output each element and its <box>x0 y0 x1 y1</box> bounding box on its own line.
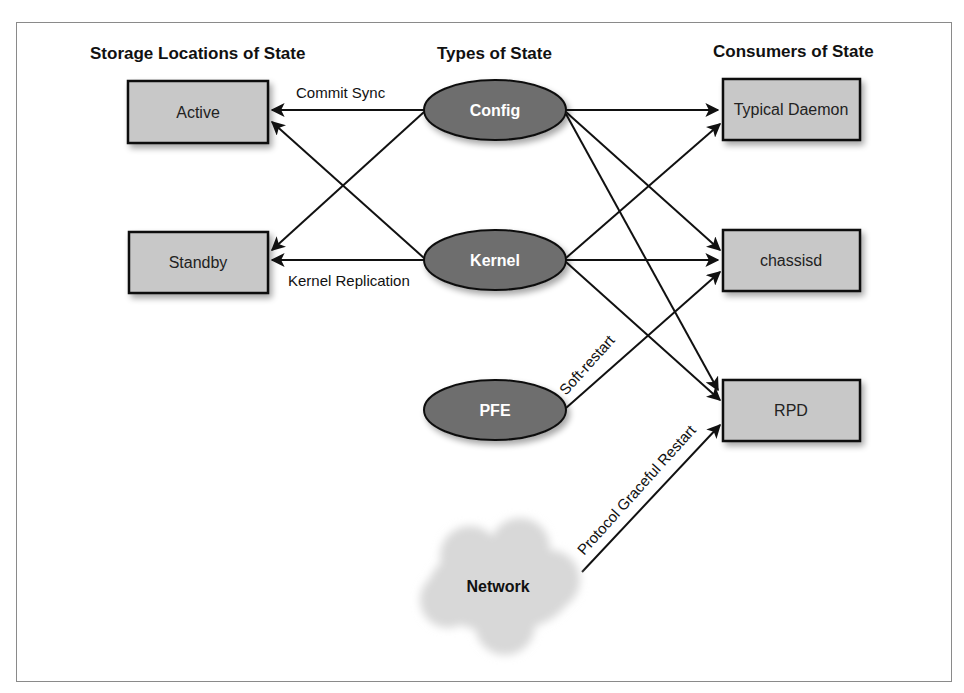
header-storage-locations: Storage Locations of State <box>90 44 305 63</box>
node-network-label: Network <box>466 578 529 595</box>
header-types-of-state: Types of State <box>437 44 552 63</box>
node-active-label: Active <box>176 104 220 121</box>
node-rpd-label: RPD <box>774 402 808 419</box>
edges <box>272 110 720 572</box>
edge-label-protocol-graceful-restart: Protocol Graceful Restart <box>574 421 700 558</box>
edge-kernel-typical-daemon <box>566 124 720 258</box>
edge-label-kernel-replication: Kernel Replication <box>288 272 410 289</box>
edge-network-rpd <box>582 425 720 572</box>
edge-config-chassisd <box>566 112 720 250</box>
edge-kernel-rpd <box>566 262 720 400</box>
node-config-label: Config <box>470 102 521 119</box>
edge-pfe-chassisd <box>566 272 720 408</box>
node-standby-label: Standby <box>169 254 228 271</box>
node-kernel-label: Kernel <box>470 252 520 269</box>
node-typical-daemon-label: Typical Daemon <box>734 101 849 118</box>
edge-label-soft-restart: Soft-restart <box>556 331 619 398</box>
header-consumers-of-state: Consumers of State <box>713 42 874 61</box>
node-chassisd-label: chassisd <box>760 252 822 269</box>
state-diagram: Storage Locations of State Types of Stat… <box>0 0 964 693</box>
node-pfe-label: PFE <box>479 402 510 419</box>
edge-config-standby <box>272 112 424 250</box>
edge-label-commit-sync: Commit Sync <box>296 84 386 101</box>
edge-kernel-active <box>272 122 424 258</box>
